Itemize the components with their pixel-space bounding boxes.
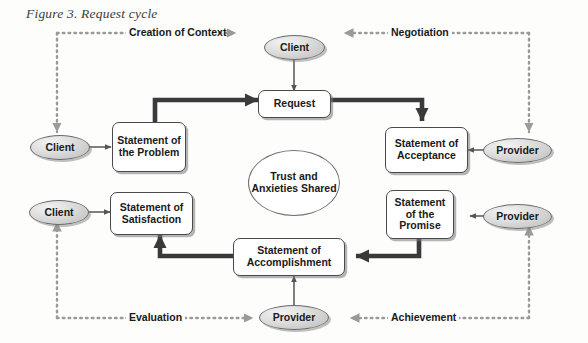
- node-client-lower-left[interactable]: Client: [29, 200, 89, 225]
- node-label: Provider: [496, 211, 539, 223]
- dotted-loop-creation-of-context: [57, 33, 236, 132]
- node-statement-of-satisfaction[interactable]: Statement of Satisfaction: [110, 192, 193, 235]
- node-label: Trust and Anxieties Shared: [249, 171, 339, 195]
- edge-accomplishment-to-satisfaction: [160, 235, 234, 256]
- node-label: Client: [45, 142, 74, 154]
- node-statement-of-accomplishment[interactable]: Statement of Accomplishment: [233, 238, 345, 276]
- node-request[interactable]: Request: [258, 90, 331, 118]
- edge-request-to-acceptance: [330, 100, 422, 121]
- dotted-loop-evaluation: [57, 222, 253, 318]
- node-trust-and-anxieties-shared: Trust and Anxieties Shared: [248, 150, 340, 216]
- node-provider-lower-right[interactable]: Provider: [483, 204, 552, 229]
- phase-label-evaluation: Evaluation: [126, 311, 185, 323]
- node-label: Statement of Acceptance: [389, 138, 464, 162]
- dotted-loop-achievement: [350, 226, 529, 318]
- node-label: Provider: [273, 312, 316, 324]
- node-label: Statement of Accomplishment: [237, 245, 341, 269]
- node-provider-right[interactable]: Provider: [483, 138, 552, 163]
- phase-label-negotiation: Negotiation: [388, 26, 452, 38]
- node-statement-of-acceptance[interactable]: Statement of Acceptance: [385, 127, 468, 173]
- node-label: Request: [274, 98, 315, 110]
- node-label: Client: [280, 42, 309, 54]
- phase-label-achievement: Achievement: [388, 311, 459, 323]
- node-statement-of-the-problem[interactable]: Statement of the Problem: [112, 122, 186, 172]
- node-statement-of-the-promise[interactable]: Statement of the Promise: [386, 190, 454, 239]
- node-provider-bottom[interactable]: Provider: [259, 305, 329, 330]
- node-label: Client: [44, 207, 73, 219]
- node-label: Statement of the Problem: [116, 135, 182, 159]
- node-client-top[interactable]: Client: [264, 35, 325, 60]
- edge-promise-to-accomplishment: [356, 238, 419, 256]
- node-client-left[interactable]: Client: [30, 135, 90, 160]
- dotted-loop-negotiation: [344, 33, 529, 132]
- node-label: Statement of Satisfaction: [114, 202, 189, 226]
- node-label: Provider: [496, 145, 539, 157]
- phase-label-creation-of-context: Creation of Context: [126, 26, 216, 38]
- figure-container: Figure 3. Request cycle: [0, 0, 588, 343]
- node-label: Statement of the Promise: [390, 197, 450, 232]
